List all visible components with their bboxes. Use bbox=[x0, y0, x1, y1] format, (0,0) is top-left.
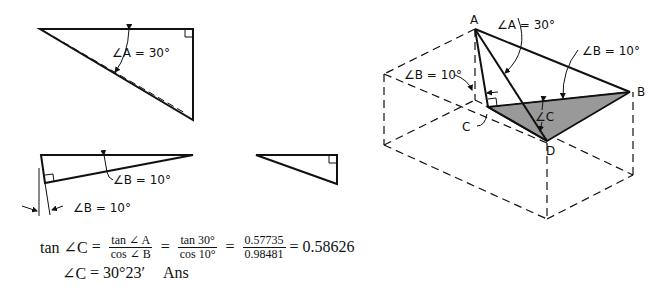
angle-c-label: ∠C bbox=[535, 110, 554, 124]
answer-suffix: Ans bbox=[163, 264, 189, 282]
vertex-d-label: D bbox=[546, 144, 555, 158]
formula-block: tan ∠C = tan ∠ A cos ∠ B = tan 30° cos 1… bbox=[40, 234, 355, 286]
formula-lhs: tan ∠C bbox=[40, 238, 88, 257]
angle-a-label: ∠A = 30° bbox=[112, 46, 170, 60]
angle-b-iso-right-label: ∠B = 10° bbox=[582, 44, 640, 58]
formula-equals: = bbox=[92, 238, 101, 256]
isometric-figure: A B C D ∠A = 30° ∠B = 10° ∠B = 10° ∠C bbox=[384, 13, 645, 219]
fraction-symbolic: tan ∠ A cos ∠ B bbox=[109, 234, 153, 261]
formula-line-1: tan ∠C = tan ∠ A cos ∠ B = tan 30° cos 1… bbox=[40, 234, 355, 260]
formula-result: = 0.58626 bbox=[290, 238, 355, 256]
angle-a-iso-label: ∠A = 30° bbox=[497, 18, 555, 32]
triangle-small bbox=[256, 155, 337, 184]
vertex-c-label: C bbox=[462, 120, 470, 134]
answer-lhs: ∠C bbox=[62, 264, 86, 283]
fraction-degrees: tan 30° cos 10° bbox=[178, 234, 218, 261]
triangle-angle-b: ∠B = 10° ∠B = 10° bbox=[22, 155, 193, 216]
vertex-b-label: B bbox=[637, 85, 645, 99]
answer-value: 30°23′ bbox=[103, 264, 145, 282]
angle-b-iso-left-label: ∠B = 10° bbox=[404, 68, 462, 82]
triangle-angle-a: ∠A = 30° bbox=[40, 29, 193, 120]
angle-b-inner-label: ∠B = 10° bbox=[113, 173, 171, 187]
formula-line-2: ∠C = 30°23′ Ans bbox=[40, 260, 355, 286]
angle-b-outer-label: ∠B = 10° bbox=[73, 201, 131, 215]
fraction-values: 0.57735 0.98481 bbox=[243, 234, 286, 261]
vertex-a-label: A bbox=[470, 13, 479, 27]
